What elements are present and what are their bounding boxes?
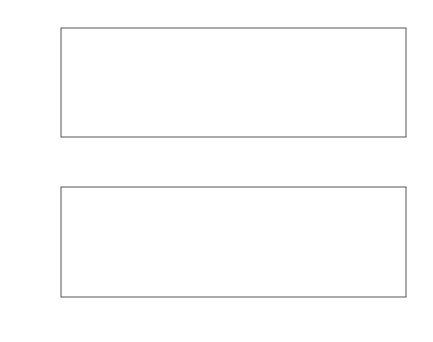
gain-plot: [61, 28, 406, 137]
phase-plot: [61, 187, 406, 297]
chart-canvas: [0, 0, 433, 342]
gain-plot-frame: [61, 28, 406, 137]
phase-plot-frame: [61, 187, 406, 297]
